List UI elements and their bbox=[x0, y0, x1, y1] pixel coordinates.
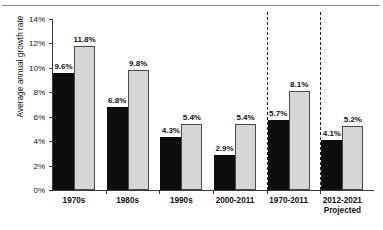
bar-historical bbox=[214, 155, 235, 190]
y-tick-mark bbox=[49, 19, 52, 20]
bar-projected bbox=[74, 46, 95, 190]
dashed-group-separator bbox=[320, 12, 321, 190]
bar-value-label: 5.4% bbox=[236, 113, 254, 122]
x-category-label: 1990s bbox=[170, 196, 193, 205]
y-tick-label: 10% bbox=[19, 63, 45, 72]
y-tick-label: 14% bbox=[19, 15, 45, 24]
y-tick-label: 8% bbox=[19, 88, 45, 97]
bar-value-label: 2.9% bbox=[215, 144, 233, 153]
bar-value-label: 11.8% bbox=[73, 35, 95, 44]
y-tick-mark bbox=[49, 43, 52, 44]
bar-value-label: 5.4% bbox=[183, 113, 201, 122]
bar-value-label: 8.1% bbox=[290, 80, 308, 89]
top-divider-rule bbox=[2, 5, 380, 6]
y-tick-label: 2% bbox=[19, 161, 45, 170]
x-category-sublabel: Projected bbox=[323, 206, 362, 215]
y-tick-mark bbox=[49, 190, 52, 191]
y-tick-label: 0% bbox=[19, 186, 45, 195]
chart-figure: Average annual growth rate 0%2%4%6%8%10%… bbox=[0, 0, 383, 230]
bar-value-label: 4.3% bbox=[162, 126, 180, 135]
bar-value-label: 9.6% bbox=[54, 62, 72, 71]
bar-projected bbox=[235, 124, 256, 190]
x-tick-mark bbox=[213, 190, 214, 194]
bar-historical bbox=[321, 140, 342, 190]
x-category-label: 2012-2021Projected bbox=[323, 196, 362, 215]
y-tick-label: 6% bbox=[19, 112, 45, 121]
bar-historical bbox=[160, 137, 181, 190]
x-category-label: 1970s bbox=[63, 196, 86, 205]
y-tick-label: 4% bbox=[19, 137, 45, 146]
bar-projected bbox=[342, 126, 363, 190]
x-tick-mark bbox=[320, 190, 321, 194]
dashed-group-separator bbox=[267, 12, 268, 190]
y-tick-mark bbox=[49, 68, 52, 69]
bar-historical bbox=[268, 120, 289, 190]
bar-value-label: 5.2% bbox=[344, 115, 362, 124]
y-tick-mark bbox=[49, 92, 52, 93]
bar-value-label: 9.8% bbox=[129, 59, 147, 68]
x-tick-mark bbox=[159, 190, 160, 194]
x-category-label: 1980s bbox=[116, 196, 139, 205]
bar-value-label: 4.1% bbox=[323, 129, 341, 138]
y-tick-mark bbox=[49, 166, 52, 167]
bar-value-label: 5.7% bbox=[269, 109, 287, 118]
y-tick-label: 12% bbox=[19, 39, 45, 48]
x-category-label: 1970-2011 bbox=[269, 196, 308, 205]
x-tick-mark bbox=[106, 190, 107, 194]
y-tick-mark bbox=[49, 141, 52, 142]
y-tick-mark bbox=[49, 117, 52, 118]
bar-projected bbox=[181, 124, 202, 190]
bar-projected bbox=[128, 70, 149, 190]
bar-historical bbox=[53, 73, 74, 190]
x-category-label: 2000-2011 bbox=[216, 196, 255, 205]
bar-historical bbox=[107, 107, 128, 190]
x-tick-mark bbox=[267, 190, 268, 194]
bar-value-label: 6.8% bbox=[108, 96, 126, 105]
bar-projected bbox=[289, 91, 310, 190]
